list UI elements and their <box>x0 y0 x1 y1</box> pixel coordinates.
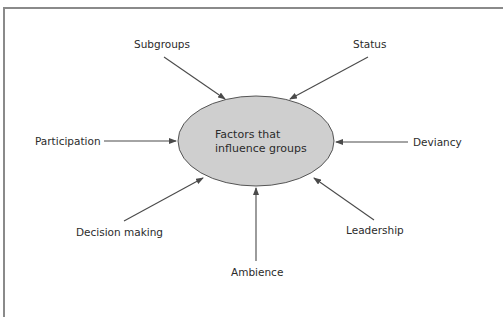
center-ellipse <box>178 96 334 186</box>
factor-status: Status <box>290 38 386 99</box>
factor-label-participation: Participation <box>35 135 101 147</box>
factor-label-ambience: Ambience <box>231 266 283 278</box>
arrow-status <box>290 57 368 99</box>
center-node: Factors that influence groups <box>178 96 334 186</box>
factor-leadership: Leadership <box>314 178 404 236</box>
factor-deviancy: Deviancy <box>336 136 462 148</box>
arrow-subgroups <box>164 57 225 99</box>
factor-decision-making: Decision making <box>76 178 203 238</box>
center-label-line1: Factors that <box>215 128 281 141</box>
factor-label-leadership: Leadership <box>346 224 404 236</box>
factor-label-deviancy: Deviancy <box>413 136 462 148</box>
factor-label-status: Status <box>353 38 386 50</box>
arrow-leadership <box>314 178 374 220</box>
factor-subgroups: Subgroups <box>134 38 225 99</box>
factor-label-decision-making: Decision making <box>76 226 163 238</box>
factor-participation: Participation <box>35 135 176 147</box>
factor-label-subgroups: Subgroups <box>134 38 190 50</box>
factor-ambience: Ambience <box>231 188 283 278</box>
arrow-decision-making <box>124 178 203 221</box>
center-label-line2: influence groups <box>215 142 307 155</box>
